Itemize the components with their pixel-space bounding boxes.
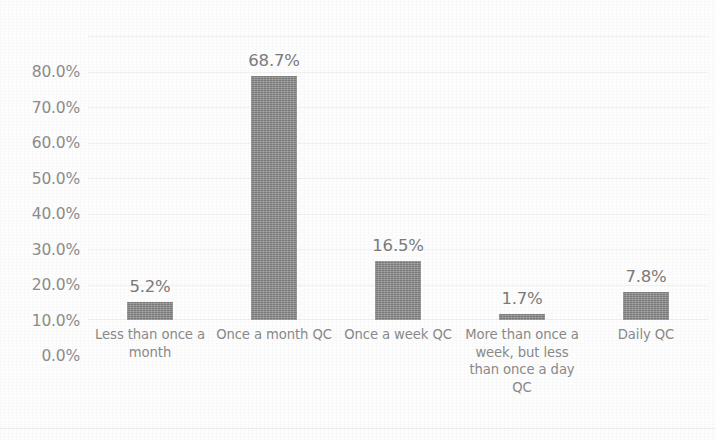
y-axis-tick-label: 40.0% <box>6 205 80 223</box>
bar-group: 1.7% <box>460 36 584 320</box>
scan-artifact-line <box>0 428 716 429</box>
y-axis-tick-label: 80.0% <box>6 63 80 81</box>
bar-group: 5.2% <box>88 36 212 320</box>
x-axis-category-label: Once a week QC <box>336 326 460 344</box>
y-axis-tick-label: 50.0% <box>6 170 80 188</box>
bar-value-label: 7.8% <box>625 267 666 286</box>
x-axis-category-label: Once a month QC <box>212 326 336 344</box>
bar-group: 7.8% <box>584 36 708 320</box>
y-axis-tick-label: 30.0% <box>6 241 80 259</box>
y-axis-tick-label: 10.0% <box>6 312 80 330</box>
y-axis-tick-label: 0.0% <box>6 347 80 365</box>
bar-group: 68.7% <box>212 36 336 320</box>
y-axis-tick-label: 20.0% <box>6 276 80 294</box>
bar[interactable] <box>375 261 421 320</box>
bar[interactable] <box>251 76 297 320</box>
bar[interactable] <box>499 314 545 320</box>
bar[interactable] <box>623 292 669 320</box>
x-axis-category-label: Daily QC <box>584 326 708 344</box>
x-axis-category-label: More than once a week, but less than onc… <box>460 326 584 396</box>
bar-value-label: 1.7% <box>501 289 542 308</box>
x-axis: Less than once a monthOnce a month QCOnc… <box>88 326 708 436</box>
bar-group: 16.5% <box>336 36 460 320</box>
plot-area: 5.2%68.7%16.5%1.7%7.8% <box>88 36 708 320</box>
bar[interactable] <box>127 302 173 320</box>
y-axis-tick-label: 70.0% <box>6 99 80 117</box>
bar-value-label: 16.5% <box>372 236 423 255</box>
y-axis-tick-label: 60.0% <box>6 134 80 152</box>
x-axis-category-label: Less than once a month <box>88 326 212 361</box>
y-axis: 80.0%70.0%60.0%50.0%40.0%30.0%20.0%10.0%… <box>0 36 80 320</box>
bar-chart-figure: 80.0%70.0%60.0%50.0%40.0%30.0%20.0%10.0%… <box>0 0 716 440</box>
bar-value-label: 5.2% <box>129 277 170 296</box>
bar-value-label: 68.7% <box>248 51 299 70</box>
